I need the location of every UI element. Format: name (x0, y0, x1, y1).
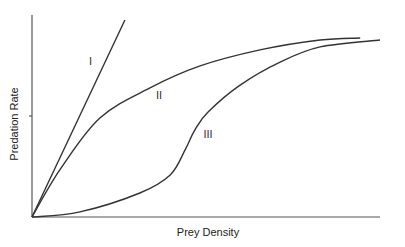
curve-type-i (32, 20, 125, 217)
curve-label-i: I (89, 55, 92, 67)
curve-label-iii: III (204, 128, 213, 140)
x-axis-label: Prey Density (177, 226, 240, 238)
curves (32, 20, 380, 217)
curve-label-ii: II (156, 89, 162, 101)
chart: IIIIII Prey Density Predation Rate (0, 0, 405, 247)
y-axis-label: Predation Rate (8, 87, 20, 160)
